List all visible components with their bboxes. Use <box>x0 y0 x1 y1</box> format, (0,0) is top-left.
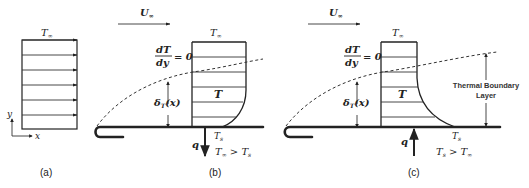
profile-temp-label: T <box>214 88 223 101</box>
profile-temp-label: T <box>398 88 407 101</box>
heat-flux-label: q <box>192 139 199 150</box>
panel-a: T∞ y x (a) <box>6 27 77 178</box>
coordinate-axes: y x <box>6 109 40 141</box>
top-temp-label: T∞ <box>392 27 404 39</box>
uniform-profile-box <box>22 40 77 129</box>
temperature-condition: T∞ > Ts <box>215 146 251 158</box>
annotation-line-2: Layer <box>476 91 496 100</box>
temperature-condition: Ts > T∞ <box>436 146 472 158</box>
gradient-equals: = 0 <box>174 51 193 62</box>
panel-a-caption: (a) <box>40 167 52 178</box>
flat-plate <box>285 127 500 137</box>
annotation-line-1: Thermal Boundary <box>453 81 520 90</box>
gradient-numerator: dT <box>156 44 172 55</box>
gradient-denominator: dy <box>345 57 359 68</box>
delta-label: δT(x) <box>342 97 370 109</box>
freestream-velocity-label: U∞ <box>140 7 154 19</box>
thermal-boundary-layer-diagram: T∞ y x (a) U∞ T∞ dT dy = 0 <box>0 0 529 188</box>
gradient-condition: dT dy = 0 <box>344 44 382 68</box>
profile-lines <box>192 57 246 117</box>
gradient-numerator: dT <box>345 44 361 55</box>
top-temp-label: T∞ <box>210 27 222 39</box>
temperature-profile-curve <box>222 42 246 127</box>
y-axis-label: y <box>6 109 13 119</box>
freestream-velocity-label: U∞ <box>329 7 343 19</box>
heat-flux-label: q <box>401 136 408 147</box>
panel-b-caption: (b) <box>209 167 221 178</box>
gradient-denominator: dy <box>156 57 170 68</box>
panel-c-caption: (c) <box>408 167 420 178</box>
gradient-equals: = 0 <box>363 51 382 62</box>
temperature-profile-curve <box>417 42 455 127</box>
uniform-temperature-arrows <box>22 40 77 115</box>
surface-temp-label: Ts <box>214 131 223 142</box>
surface-temp-label: Ts <box>452 131 461 142</box>
delta-label: δT(x) <box>153 97 181 109</box>
panel-c: U∞ T∞ dT dy = 0 T δT(x) Thermal B <box>285 7 520 178</box>
freestream-temp-label: T∞ <box>41 27 53 39</box>
x-axis-label: x <box>35 131 40 141</box>
gradient-condition: dT dy = 0 <box>155 44 193 68</box>
flat-plate <box>96 127 264 137</box>
panel-b: U∞ T∞ dT dy = 0 T δT(x) q <box>96 7 264 178</box>
